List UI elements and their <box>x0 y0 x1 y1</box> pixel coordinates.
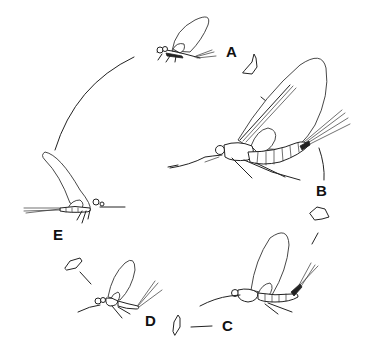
stage-label-a: A <box>226 44 237 59</box>
stage-label-d: D <box>145 313 156 328</box>
connector-d-e <box>80 272 91 284</box>
stage-label-c: C <box>222 318 233 333</box>
cycle-arrow-icon-b <box>310 207 329 220</box>
arc-e-to-a <box>55 57 134 150</box>
stage-label-e: E <box>53 227 63 242</box>
cycle-arrow-icon-a <box>243 54 257 74</box>
mayfly-life-cycle-diagram: A B C D E <box>0 0 367 346</box>
diagram-artwork <box>0 0 367 346</box>
connector-b-top <box>319 148 324 180</box>
connector-c-d <box>191 326 212 327</box>
connector-b-c <box>312 233 318 244</box>
cycle-arrow-icon-c <box>173 315 180 335</box>
mayfly-stage-d <box>78 260 162 318</box>
cycle-arrow-icon-d <box>65 258 82 270</box>
mayfly-stage-e <box>24 152 125 223</box>
mayfly-stage-c <box>200 233 318 314</box>
stage-label-b: B <box>316 183 327 198</box>
mayfly-stage-a <box>157 17 216 62</box>
